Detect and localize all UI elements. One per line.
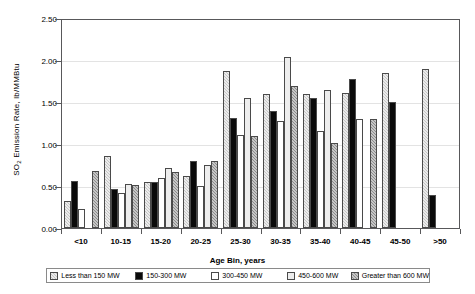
bar-group bbox=[141, 20, 181, 228]
y-tick-label: 0.00 bbox=[17, 225, 57, 234]
legend-swatch bbox=[287, 272, 295, 280]
bar bbox=[183, 176, 190, 228]
bar bbox=[144, 182, 151, 228]
bar-group bbox=[419, 20, 459, 228]
bar bbox=[151, 182, 158, 228]
bar bbox=[310, 98, 317, 228]
bar bbox=[263, 94, 270, 228]
bar bbox=[223, 71, 230, 228]
bar bbox=[291, 86, 298, 228]
bar bbox=[92, 171, 99, 228]
bar bbox=[237, 135, 244, 228]
bar bbox=[132, 185, 139, 228]
y-axis-title-prefix: SO bbox=[12, 164, 21, 176]
x-tick-mark bbox=[420, 229, 421, 234]
bar bbox=[158, 178, 165, 228]
bar bbox=[244, 98, 251, 228]
legend-item[interactable]: Less than 150 MW bbox=[47, 272, 123, 280]
x-tick-mark bbox=[460, 229, 461, 234]
bar bbox=[284, 57, 291, 228]
bar bbox=[331, 143, 338, 228]
x-tick-mark bbox=[181, 229, 182, 234]
legend-item[interactable]: 450-600 MW bbox=[275, 272, 351, 280]
bar bbox=[172, 172, 179, 228]
y-tick-label: 1.00 bbox=[17, 141, 57, 150]
bar bbox=[370, 119, 377, 228]
legend-label: Less than 150 MW bbox=[61, 272, 119, 279]
bar-group bbox=[62, 20, 102, 228]
y-tick-label: 2.50 bbox=[17, 15, 57, 24]
legend-item[interactable]: 300-450 MW bbox=[199, 272, 275, 280]
x-axis: <1010-1515-2020-2525-3030-3535-4040-4545… bbox=[61, 229, 460, 251]
legend-swatch bbox=[135, 272, 143, 280]
x-tick-label: >50 bbox=[410, 237, 470, 246]
y-axis-title-subscript: 2 bbox=[16, 160, 22, 164]
bar-group bbox=[340, 20, 380, 228]
x-tick-mark bbox=[61, 229, 62, 234]
x-tick-mark bbox=[380, 229, 381, 234]
x-tick-mark bbox=[221, 229, 222, 234]
legend-item[interactable]: Greater than 600 MW bbox=[351, 272, 429, 280]
bar-group bbox=[300, 20, 340, 228]
bar-group bbox=[221, 20, 261, 228]
bar-group bbox=[261, 20, 301, 228]
bar bbox=[422, 69, 429, 228]
x-axis-title: Age Bin, years bbox=[0, 256, 475, 265]
legend-swatch bbox=[211, 272, 219, 280]
bar bbox=[71, 181, 78, 228]
bar bbox=[317, 131, 324, 228]
bar bbox=[324, 90, 331, 228]
x-tick-mark bbox=[300, 229, 301, 234]
bar bbox=[270, 111, 277, 228]
bar bbox=[429, 195, 436, 228]
x-tick-mark bbox=[101, 229, 102, 234]
bar bbox=[356, 119, 363, 228]
bar bbox=[104, 156, 111, 228]
y-tick-label: 1.50 bbox=[17, 99, 57, 108]
legend: Less than 150 MW150-300 MW300-450 MW450-… bbox=[46, 268, 430, 283]
bar bbox=[197, 186, 204, 228]
bar bbox=[111, 189, 118, 228]
bar bbox=[251, 136, 258, 228]
x-tick-mark bbox=[340, 229, 341, 234]
bar-group bbox=[181, 20, 221, 228]
bar bbox=[78, 209, 85, 228]
y-tick-label: 2.00 bbox=[17, 57, 57, 66]
bar bbox=[125, 184, 132, 228]
y-axis-title: SO2 Emission Rate, lb/MMBtu bbox=[12, 10, 21, 230]
bar-group bbox=[102, 20, 142, 228]
legend-swatch bbox=[351, 272, 359, 280]
legend-label: Greater than 600 MW bbox=[362, 272, 429, 279]
legend-label: 150-300 MW bbox=[146, 272, 186, 279]
bar bbox=[211, 161, 218, 228]
legend-label: 300-450 MW bbox=[222, 272, 262, 279]
legend-label: 450-600 MW bbox=[298, 272, 338, 279]
y-tick-label: 0.50 bbox=[17, 183, 57, 192]
bar bbox=[118, 193, 125, 228]
bar bbox=[382, 73, 389, 228]
bar bbox=[303, 94, 310, 228]
bar bbox=[204, 165, 211, 228]
x-tick-mark bbox=[261, 229, 262, 234]
bar-group bbox=[380, 20, 420, 228]
legend-item[interactable]: 150-300 MW bbox=[123, 272, 199, 280]
x-tick-mark bbox=[141, 229, 142, 234]
bar bbox=[64, 201, 71, 228]
bar bbox=[230, 118, 237, 228]
bar bbox=[277, 121, 284, 228]
bar bbox=[342, 93, 349, 228]
bar bbox=[349, 79, 356, 228]
legend-swatch bbox=[50, 272, 58, 280]
bar-groups bbox=[62, 20, 459, 228]
bar bbox=[190, 161, 197, 228]
bar bbox=[165, 168, 172, 228]
so2-emission-rate-bar-chart: SO2 Emission Rate, lb/MMBtu 0.000.501.00… bbox=[0, 0, 475, 294]
bar bbox=[389, 102, 396, 228]
